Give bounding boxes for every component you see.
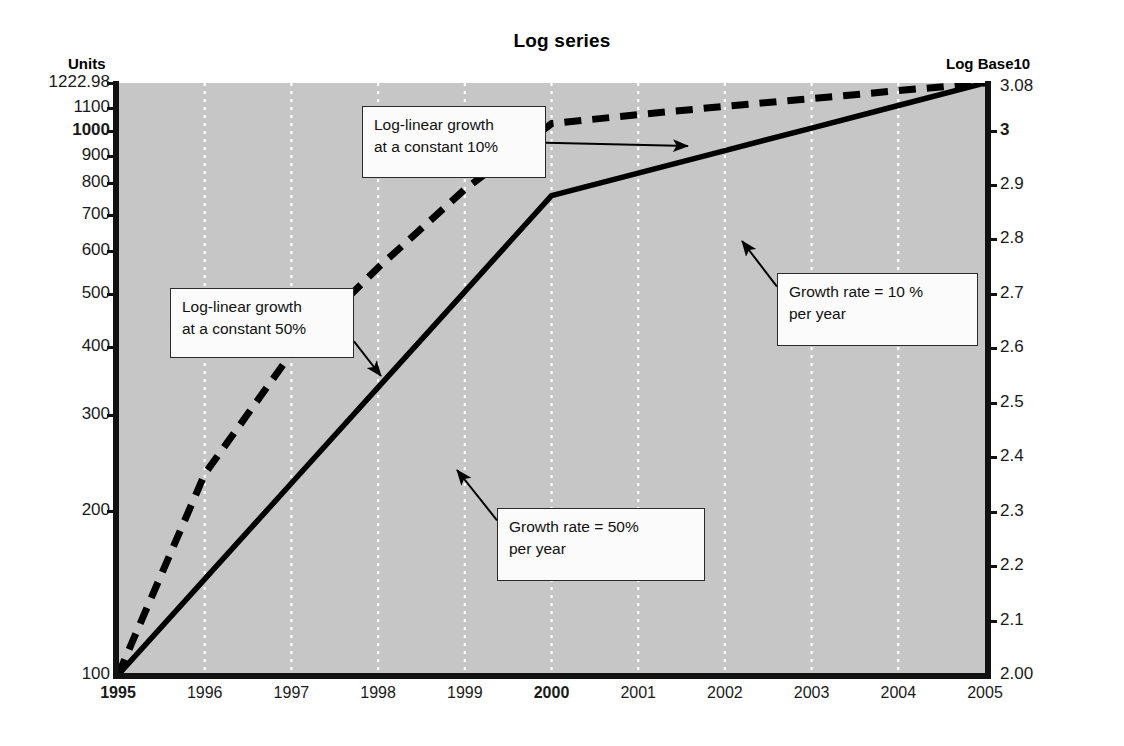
callout-log-linear-50: Log-linear growth at a constant 50%	[170, 288, 354, 358]
y-tick-mark-left-800	[107, 182, 115, 185]
plot-canvas	[118, 83, 985, 675]
y-tick-label-left-800: 800	[0, 172, 110, 192]
y-tick-label-right-2.5: 2.5	[1000, 392, 1110, 412]
y-tick-label-right-3: 3	[1000, 120, 1110, 140]
x-tick-label-2003: 2003	[772, 684, 852, 702]
y-tick-label-right-2.4: 2.4	[1000, 446, 1110, 466]
y-tick-mark-right-2.1	[989, 620, 997, 623]
y-tick-label-right-2.7: 2.7	[1000, 283, 1110, 303]
y-tick-label-left-500: 500	[0, 283, 110, 303]
y-tick-mark-right-3	[989, 130, 997, 133]
y-tick-mark-left-700	[107, 214, 115, 217]
y-tick-mark-left-600	[107, 250, 115, 253]
x-tick-label-2002: 2002	[685, 684, 765, 702]
x-tick-label-1996: 1996	[165, 684, 245, 702]
x-tick-label-1999: 1999	[425, 684, 505, 702]
callout-growth-rate-50: Growth rate = 50% per year	[497, 508, 705, 581]
y-tick-label-left-400: 400	[0, 336, 110, 356]
y-tick-label-right-2.8: 2.8	[1000, 228, 1110, 248]
callout-growth-rate-10: Growth rate = 10 % per year	[777, 273, 978, 346]
y-tick-mark-left-1000	[107, 130, 115, 133]
y-tick-mark-right-2.3	[989, 511, 997, 514]
y-tick-label-right-3.08: 3.08	[1000, 76, 1110, 96]
y-tick-label-left-1100: 1100	[0, 97, 110, 117]
y-axis-right-line	[985, 81, 991, 679]
x-tick-label-1995: 1995	[78, 684, 158, 702]
y-tick-label-left-700: 700	[0, 204, 110, 224]
y-tick-mark-left-400	[107, 346, 115, 349]
y-tick-mark-right-2.7	[989, 293, 997, 296]
y-tick-label-right-2.2: 2.2	[1000, 555, 1110, 575]
x-tick-label-1998: 1998	[338, 684, 418, 702]
y-tick-label-left-1222.98: 1222.98	[0, 72, 110, 92]
x-tick-label-2004: 2004	[858, 684, 938, 702]
y-tick-label-left-200: 200	[0, 500, 110, 520]
y-tick-mark-right-2.8	[989, 238, 997, 241]
y-tick-label-right-2.3: 2.3	[1000, 501, 1110, 521]
y-tick-mark-left-1222.98	[107, 82, 115, 85]
callout-log-linear-10: Log-linear growth at a constant 10%	[362, 106, 546, 178]
plot-area	[118, 83, 985, 675]
chart-root: Log series Units Log Base10 1222.9811001…	[0, 0, 1124, 746]
y-tick-mark-right-2.4	[989, 456, 997, 459]
y-tick-mark-right-2.5	[989, 402, 997, 405]
y-tick-label-right-2.6: 2.6	[1000, 337, 1110, 357]
y-tick-mark-left-1100	[107, 107, 115, 110]
left-axis-caption: Units	[68, 55, 106, 72]
x-tick-label-1997: 1997	[251, 684, 331, 702]
y-tick-label-right-2.00: 2.00	[1000, 664, 1110, 684]
y-tick-label-right-2.1: 2.1	[1000, 610, 1110, 630]
y-tick-label-left-300: 300	[0, 404, 110, 424]
y-axis-left-line	[113, 81, 119, 679]
y-tick-mark-right-2.2	[989, 565, 997, 568]
x-tick-label-2001: 2001	[598, 684, 678, 702]
y-tick-mark-right-2.6	[989, 347, 997, 350]
y-tick-label-left-1000: 1000	[0, 120, 110, 140]
y-tick-mark-left-200	[107, 510, 115, 513]
y-tick-mark-left-300	[107, 414, 115, 417]
x-axis-line	[113, 673, 991, 679]
y-tick-mark-left-900	[107, 155, 115, 158]
y-tick-label-left-900: 900	[0, 145, 110, 165]
y-tick-label-left-600: 600	[0, 240, 110, 260]
y-tick-label-left-100: 100	[0, 664, 110, 684]
right-axis-caption: Log Base10	[946, 55, 1030, 72]
gridlines	[205, 83, 899, 675]
y-tick-mark-left-500	[107, 293, 115, 296]
y-tick-mark-right-2.9	[989, 184, 997, 187]
x-tick-label-2000: 2000	[512, 684, 592, 702]
y-tick-label-right-2.9: 2.9	[1000, 174, 1110, 194]
chart-title: Log series	[0, 30, 1124, 52]
x-tick-label-2005: 2005	[945, 684, 1025, 702]
